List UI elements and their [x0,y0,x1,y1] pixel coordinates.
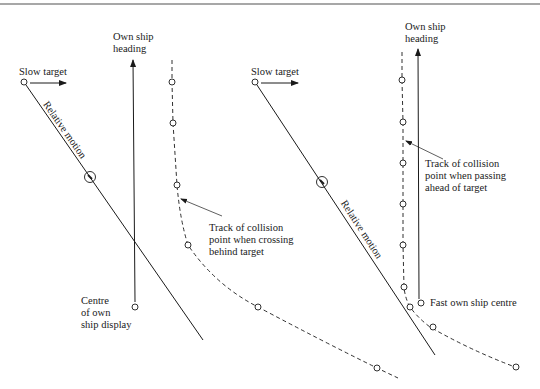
slow-target-marker [21,79,27,85]
collision-track-leader-arrow [406,141,443,159]
left-panel [21,60,398,378]
slow-target-marker [252,79,258,85]
right-own-ship-heading-label: Own ship heading [405,21,446,45]
right-fast-own-ship-centre-label: Fast own ship centre [430,297,517,309]
left-collision-track-label: Track of collision point when crossing b… [209,222,294,258]
cpa-tick [88,175,92,179]
left-slow-target-label: Slow target [19,66,67,78]
own-ship-heading-arrow [418,49,419,299]
collision-track-points [399,77,519,370]
own-ship-centre-marker [132,304,138,310]
collision-track-dashed [402,52,518,369]
own-ship-heading-arrow [133,60,135,302]
collision-point-diagram: Own ship heading Slow target Relative mo… [0,0,540,389]
right-panel [252,49,519,370]
collision-track-leader-arrow [181,199,222,216]
left-own-ship-centre-label: Centre of own ship display [81,295,131,331]
fast-own-ship-centre-marker [418,300,424,306]
right-slow-target-label: Slow target [251,66,299,78]
left-own-ship-heading-label: Own ship heading [113,31,154,55]
right-collision-track-label: Track of collision point when passing ah… [425,158,506,194]
relative-motion-line [257,85,435,355]
collision-track-dashed [172,60,398,378]
